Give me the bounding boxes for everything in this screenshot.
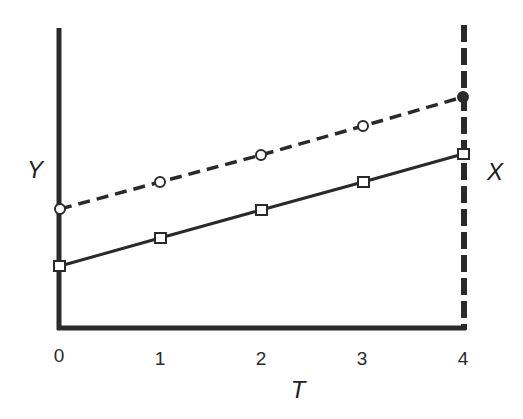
circle-markers	[55, 92, 468, 214]
circle-marker-icon	[155, 177, 165, 187]
circle-marker-icon	[256, 150, 266, 160]
circle-marker-icon	[55, 204, 65, 214]
square-marker-icon	[256, 205, 267, 215]
square-markers	[54, 149, 469, 271]
square-marker-icon	[54, 261, 65, 271]
t-axis-label: T	[291, 376, 308, 403]
square-marker-icon	[458, 149, 469, 159]
x-tick-4: 4	[458, 348, 469, 369]
square-marker-icon	[358, 177, 369, 187]
x-tick-2: 2	[256, 348, 267, 369]
x-tick-3: 3	[357, 348, 368, 369]
x-tick-1: 1	[155, 348, 166, 369]
circle-marker-icon	[358, 121, 368, 131]
x-tick-0: 0	[54, 345, 65, 366]
y-axis-label: Y	[27, 156, 45, 183]
x-right-label: X	[486, 158, 504, 185]
chart: 0 1 2 3 4 Y X T	[0, 0, 523, 419]
circle-marker-icon	[458, 92, 468, 102]
square-marker-icon	[155, 233, 166, 243]
